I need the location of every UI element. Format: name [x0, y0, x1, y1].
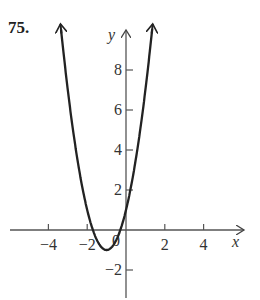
right-arrow-icon — [152, 24, 153, 33]
curve — [60, 24, 152, 250]
x-tick-label: −4 — [40, 236, 57, 253]
ticks: −4−2248642−20 — [40, 61, 208, 278]
x-tick-label: 2 — [161, 236, 169, 253]
y-tick-label: 8 — [114, 61, 122, 78]
parabola-plot: xy −4−2248642−20 — [0, 0, 260, 300]
axes: xy — [10, 26, 244, 298]
y-tick-label: 4 — [114, 141, 122, 158]
y-axis-label: y — [106, 26, 116, 44]
y-tick-label: 2 — [114, 181, 122, 198]
x-axis-label: x — [231, 233, 239, 250]
x-tick-label: −2 — [79, 236, 96, 253]
x-tick-label: 4 — [200, 236, 208, 253]
y-tick-label: −2 — [105, 261, 122, 278]
parabola-curve — [61, 29, 152, 250]
left-arrow-icon — [60, 24, 61, 33]
y-tick-label: 6 — [114, 101, 122, 118]
